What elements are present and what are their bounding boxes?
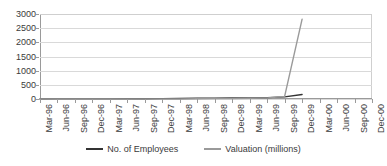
x-axis-tick (302, 99, 303, 103)
x-axis-tick-label: Jun-97 (131, 104, 141, 132)
x-axis-tick-label: Dec-96 (96, 104, 106, 133)
x-axis-tick-label: Dec-97 (166, 104, 176, 133)
chart-legend: No. of EmployeesValuation (millions) (0, 144, 387, 154)
x-axis-tick (267, 99, 268, 103)
x-axis-tick-label: Jun-00 (341, 104, 351, 132)
x-axis-tick-label: Sep-99 (289, 104, 299, 133)
x-axis-tick-label: Jun-98 (201, 104, 211, 132)
x-axis-tick (355, 99, 356, 103)
x-axis-tick-label: Dec-99 (306, 104, 316, 133)
x-axis-tick (75, 99, 76, 103)
y-axis-tick-label: 500 (0, 81, 36, 90)
x-axis-tick (110, 99, 111, 103)
legend-label: No. of Employees (107, 144, 178, 154)
y-axis-tick (36, 85, 39, 86)
y-axis-tick (36, 71, 39, 72)
y-axis-tick-label: 0 (0, 95, 36, 104)
legend-label: Valuation (millions) (225, 144, 300, 154)
x-axis-tick-label: Dec-98 (236, 104, 246, 133)
legend-entry[interactable]: No. of Employees (86, 144, 178, 154)
y-axis-tick (36, 99, 39, 100)
x-axis-tick (285, 99, 286, 103)
x-axis-tick (337, 99, 338, 103)
plot-area (40, 14, 372, 99)
x-axis-tick (320, 99, 321, 103)
y-axis-tick (36, 57, 39, 58)
y-axis-tick-label: 1000 (0, 67, 36, 76)
x-axis-tick (57, 99, 58, 103)
x-axis-tick-label: Sep-97 (149, 104, 159, 133)
x-axis-tick (145, 99, 146, 103)
y-axis-tick (36, 42, 39, 43)
x-axis-tick (180, 99, 181, 103)
series-line (40, 19, 302, 99)
y-axis-tick-label: 1500 (0, 53, 36, 62)
y-axis-tick-label: 2000 (0, 38, 36, 47)
x-axis-tick-label: Sep-96 (79, 104, 89, 133)
x-axis-tick-label: Mar-00 (324, 104, 334, 133)
y-axis-tick-label: 2500 (0, 24, 36, 33)
x-axis-tick-label: Sep-00 (359, 104, 369, 133)
legend-entry[interactable]: Valuation (millions) (204, 144, 300, 154)
x-axis-tick (162, 99, 163, 103)
x-axis-tick-label: Mar-99 (254, 104, 264, 133)
x-axis-tick-label: Jun-99 (271, 104, 281, 132)
x-axis-tick-label: Mar-96 (44, 104, 54, 133)
legend-line-icon (204, 148, 221, 150)
y-axis-tick (36, 28, 39, 29)
x-axis-tick-label: Mar-97 (114, 104, 124, 133)
x-axis-tick (92, 99, 93, 103)
x-axis-tick (215, 99, 216, 103)
chart-container: 300025002000150010005000 Mar-96Jun-96Sep… (0, 0, 387, 166)
x-axis-tick (232, 99, 233, 103)
y-axis-tick-label: 3000 (0, 10, 36, 19)
x-axis-tick (40, 99, 41, 103)
y-axis-tick (36, 14, 39, 15)
series-lines (40, 14, 372, 99)
x-axis-tick-label: Mar-98 (184, 104, 194, 133)
legend-line-icon (86, 148, 103, 150)
x-axis-tick (127, 99, 128, 103)
x-axis-tick (250, 99, 251, 103)
x-axis-labels: Mar-96Jun-96Sep-96Dec-96Mar-97Jun-97Sep-… (40, 104, 372, 138)
y-axis-labels: 300025002000150010005000 (0, 14, 36, 99)
x-axis-tick (372, 99, 373, 103)
x-axis-tick (197, 99, 198, 103)
x-axis-tick-label: Sep-98 (219, 104, 229, 133)
x-axis-tick-label: Jun-96 (61, 104, 71, 132)
x-axis-tick-label: Dec-00 (376, 104, 386, 133)
